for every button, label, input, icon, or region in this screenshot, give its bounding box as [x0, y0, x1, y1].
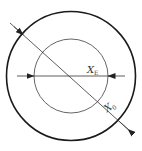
label-inner-diameter: X E: [86, 64, 98, 76]
outer-dimension-arrow-bottom: [119, 121, 128, 129]
outer-dimension-arrow-top: [14, 27, 23, 35]
concentric-circles-diagram: X E X 0: [0, 0, 142, 151]
label-outer-diameter: X 0: [101, 99, 118, 116]
label-inner-subscript: E: [94, 69, 98, 76]
